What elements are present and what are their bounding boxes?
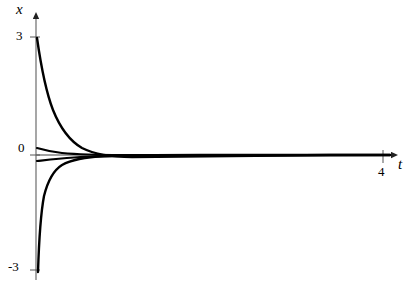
y-axis-label: x [16,2,23,17]
y-tick-label-0: 0 [18,141,25,154]
plot-canvas [0,0,414,292]
x-tick-label-4: 4 [378,165,385,178]
figure-container: x t 3 0 -3 4 [0,0,414,292]
solution-curve-upper [37,38,390,157]
x-axis-label: t [398,157,402,172]
y-tick-label-minus-3: -3 [8,260,19,273]
y-tick-label-3: 3 [16,29,23,42]
solution-curve-lower [38,155,390,272]
